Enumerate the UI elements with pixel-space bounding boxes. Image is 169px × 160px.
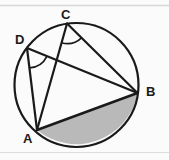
chord-CB xyxy=(67,24,138,94)
chord-DB xyxy=(27,48,138,93)
vertex-label-b: B xyxy=(146,85,155,98)
diagram-canvas: A B C D xyxy=(0,0,169,160)
shaded-segment xyxy=(37,93,138,144)
vertex-label-a: A xyxy=(23,132,32,145)
chord-DA xyxy=(27,48,37,130)
vertex-label-c: C xyxy=(61,8,70,21)
angle-arc-at-D xyxy=(29,56,47,68)
chord-CA xyxy=(37,24,67,131)
angle-arc-at-C xyxy=(61,38,81,44)
vertex-label-d: D xyxy=(15,33,24,46)
